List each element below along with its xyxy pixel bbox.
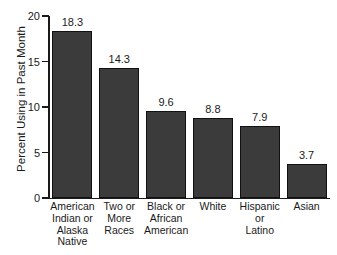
bar — [99, 68, 139, 198]
x-category-label: White — [190, 201, 237, 213]
plot-area — [49, 16, 330, 198]
x-category-label: Asian — [283, 201, 330, 213]
x-category-label: Two or More Races — [96, 201, 143, 236]
x-category-label: Black or African American — [143, 201, 190, 236]
bar-value-label: 8.8 — [193, 103, 233, 115]
y-tick-mark — [42, 152, 49, 154]
x-category-label: Hispanic or Latino — [236, 201, 283, 236]
bar-value-label: 9.6 — [146, 96, 186, 108]
y-tick-label: 0 — [0, 192, 40, 204]
x-category-label: American Indian or Alaska Native — [49, 201, 96, 248]
bar-value-label: 14.3 — [99, 53, 139, 65]
bar — [52, 31, 92, 198]
bar — [193, 118, 233, 198]
y-tick-label: 10 — [0, 101, 40, 113]
y-tick-label: 15 — [0, 56, 40, 68]
bar-value-label: 18.3 — [52, 16, 92, 28]
bar-value-label: 7.9 — [240, 111, 280, 123]
y-tick-mark — [42, 106, 49, 108]
bar — [240, 126, 280, 198]
y-tick-mark — [42, 15, 49, 17]
y-tick-mark — [42, 197, 49, 199]
bar — [287, 164, 327, 198]
bar-chart: Percent Using in Past Month 05101520 18.… — [0, 0, 337, 255]
y-tick-label: 5 — [0, 147, 40, 159]
bar-value-label: 3.7 — [287, 149, 327, 161]
bar — [146, 111, 186, 198]
y-axis-title: Percent Using in Past Month — [10, 0, 32, 198]
y-tick-label: 20 — [0, 10, 40, 22]
y-tick-mark — [42, 61, 49, 63]
